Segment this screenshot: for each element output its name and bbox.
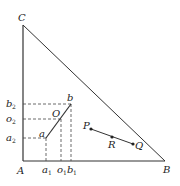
svg-text:2: 2 bbox=[12, 103, 16, 110]
label-a: A bbox=[16, 165, 24, 176]
side-cb bbox=[23, 25, 165, 161]
label-r: R bbox=[107, 139, 116, 150]
label-q: Q bbox=[135, 140, 143, 151]
y-tick-a2: a 2 bbox=[6, 132, 16, 144]
label-c: C bbox=[18, 12, 26, 23]
label-point-a: a bbox=[39, 128, 45, 139]
y-tick-o2: o 2 bbox=[6, 113, 16, 125]
label-point-b: b bbox=[67, 92, 73, 103]
svg-text:2: 2 bbox=[12, 137, 16, 144]
label-b-vertex: B bbox=[162, 164, 170, 175]
point-p bbox=[89, 127, 92, 130]
y-tick-b2: b 2 bbox=[6, 98, 16, 110]
x-tick-o1: o 1 bbox=[57, 164, 67, 176]
svg-text:1: 1 bbox=[48, 169, 52, 176]
label-point-o: O bbox=[52, 108, 60, 119]
triangle-diagram: C A B a O b b 2 o 2 a 2 a 1 o 1 b 1 P R … bbox=[0, 0, 180, 186]
x-tick-b1: b 1 bbox=[67, 164, 77, 176]
x-tick-a1: a 1 bbox=[42, 164, 52, 176]
label-p: P bbox=[82, 120, 90, 131]
svg-text:1: 1 bbox=[73, 169, 77, 176]
projection-lines bbox=[23, 104, 71, 161]
svg-text:2: 2 bbox=[12, 118, 16, 125]
